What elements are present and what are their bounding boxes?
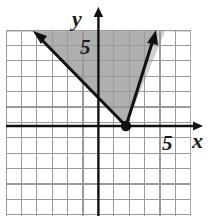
coordinate-plane: 5 5 y x bbox=[0, 0, 209, 216]
vertex-dot bbox=[121, 121, 131, 131]
y-axis-tick-label: 5 bbox=[80, 35, 91, 59]
graph-figure: 5 5 y x bbox=[0, 0, 209, 216]
x-axis-name-label: x bbox=[191, 128, 203, 153]
x-axis-tick-label: 5 bbox=[162, 131, 173, 155]
